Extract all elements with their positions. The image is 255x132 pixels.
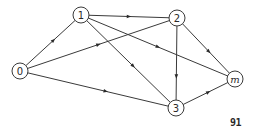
arrowhead-icon (206, 91, 211, 95)
edge-1-to-3 (81, 15, 176, 108)
directed-graph: 0123m (0, 0, 255, 132)
arrowhead-icon (155, 44, 160, 47)
edge-0-to-3 (20, 71, 176, 108)
arrowhead-icon (127, 15, 132, 19)
edge-line (20, 71, 176, 108)
node-label: 2 (174, 13, 180, 24)
edge-2-to-m (177, 18, 235, 79)
edges-layer (20, 15, 235, 108)
node-m: m (227, 71, 243, 87)
node-1: 1 (73, 7, 89, 23)
edge-0-to-2 (20, 18, 177, 71)
node-3: 3 (168, 100, 184, 116)
arrowhead-icon (96, 44, 101, 47)
node-label: m (230, 74, 239, 85)
edge-1-to-2 (81, 15, 177, 19)
node-0: 0 (12, 63, 28, 79)
node-label: 3 (173, 103, 179, 114)
edge-0-to-1 (20, 15, 81, 71)
edge-2-to-3 (175, 18, 179, 108)
edge-3-to-m (176, 79, 235, 108)
page-number: 91 (230, 117, 241, 128)
node-label: 0 (17, 66, 23, 77)
edge-line (176, 18, 177, 108)
edge-line (177, 18, 235, 79)
edge-line (176, 79, 235, 108)
edge-line (20, 15, 81, 71)
node-2: 2 (169, 10, 185, 26)
arrowhead-icon (175, 74, 179, 79)
edge-line (81, 15, 176, 108)
node-label: 1 (78, 10, 84, 21)
